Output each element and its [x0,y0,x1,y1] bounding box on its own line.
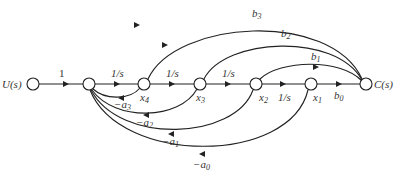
gain-b0: b0 [334,89,344,103]
node-x3 [194,78,206,90]
x1-label: x1 [312,91,322,105]
graph-canvas: U(s) C(s) x4 x3 x2 x1 1 1/s 1/s 1/s 1/s … [0,0,395,177]
gain-b1: b1 [311,50,321,64]
gain-1s-b: 1/s [166,67,179,79]
arrow-icon [134,22,140,28]
node-x1 [305,78,317,90]
gain-1s-c: 1/s [222,67,235,79]
arrow-icon [162,42,168,48]
gain-a1: −a1 [162,135,179,149]
gain-b3: b3 [252,7,262,21]
gain-a3: −a3 [114,98,131,112]
signal-flow-graph: U(s) C(s) x4 x3 x2 x1 1 1/s 1/s 1/s 1/s … [0,0,395,177]
node-x4 [138,78,150,90]
input-label: U(s) [2,78,22,91]
arrow-icon [63,81,69,87]
output-label: C(s) [374,78,393,91]
gain-a2: −a2 [136,116,153,130]
gain-1s-a: 1/s [111,67,124,79]
gain-b2: b2 [281,27,291,41]
node-u [27,78,39,90]
gain-a0: −a0 [193,158,210,172]
arrow-icon [336,81,342,87]
node-n1 [83,78,95,90]
arrow-icon [225,81,231,87]
x2-label: x2 [258,91,268,105]
gain-1: 1 [59,67,65,79]
x3-label: x3 [195,91,205,105]
gain-1s-d: 1/s [278,91,291,103]
arrow-icon [169,81,175,87]
arrow-icon [199,151,205,157]
edge-x4-to-n1-a3 [93,88,140,97]
edge-x4-to-c-b3 [148,31,362,79]
x4-label: x4 [139,91,149,105]
arrow-icon [114,81,120,87]
node-c [360,78,372,90]
node-x2 [250,78,262,90]
arrow-icon [280,81,286,87]
